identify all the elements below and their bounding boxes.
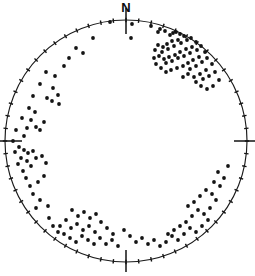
data-point	[194, 80, 198, 84]
rim-tick-group	[3, 18, 249, 264]
data-point	[33, 110, 37, 114]
data-point	[129, 36, 133, 40]
data-point	[45, 96, 49, 100]
data-point	[161, 45, 165, 49]
data-point	[200, 60, 204, 64]
data-point	[38, 198, 42, 202]
data-point	[26, 151, 30, 155]
data-point	[214, 198, 218, 202]
data-point	[191, 58, 195, 62]
data-point	[91, 36, 95, 40]
data-point-group	[11, 20, 230, 248]
data-point	[25, 126, 29, 130]
data-point	[172, 44, 176, 48]
data-point	[88, 216, 92, 220]
data-point	[14, 128, 18, 132]
data-point	[152, 56, 156, 60]
data-point	[164, 70, 168, 74]
data-point	[159, 66, 163, 70]
data-point	[94, 212, 98, 216]
data-point	[21, 169, 25, 173]
data-point	[202, 212, 206, 216]
data-point	[81, 51, 85, 55]
data-point	[140, 236, 144, 240]
data-point	[68, 236, 72, 240]
data-point	[186, 204, 190, 208]
data-point	[153, 48, 157, 52]
data-point	[29, 118, 33, 122]
data-point	[188, 226, 192, 230]
data-point	[56, 230, 60, 234]
data-point	[182, 54, 186, 58]
data-point	[166, 232, 170, 236]
data-point	[25, 159, 29, 163]
data-point	[181, 64, 185, 68]
data-point	[204, 188, 208, 192]
data-point	[194, 64, 198, 68]
data-point	[74, 240, 78, 244]
data-point	[160, 50, 164, 54]
primitive-circle	[5, 20, 247, 262]
data-point	[70, 208, 74, 212]
data-point	[185, 38, 189, 42]
data-point	[205, 56, 209, 60]
data-point	[206, 218, 210, 222]
data-point	[164, 61, 168, 65]
data-point	[34, 125, 38, 129]
data-point	[42, 120, 46, 124]
data-point	[149, 24, 153, 28]
data-point	[16, 162, 20, 166]
data-point	[211, 84, 215, 88]
data-point	[192, 200, 196, 204]
data-point	[188, 51, 192, 55]
data-point	[166, 47, 170, 51]
stereonet-plot: N	[0, 0, 255, 276]
data-point	[110, 238, 114, 242]
data-point	[99, 220, 103, 224]
data-point	[44, 161, 48, 165]
data-point	[203, 50, 207, 54]
data-point	[11, 139, 15, 143]
data-point	[20, 116, 24, 120]
data-point	[204, 68, 208, 72]
data-point	[47, 216, 51, 220]
data-point	[190, 214, 194, 218]
data-point	[178, 50, 182, 54]
data-point	[98, 236, 102, 240]
data-point	[50, 99, 54, 103]
data-point	[196, 208, 200, 212]
north-label: N	[121, 0, 130, 15]
data-point	[179, 41, 183, 45]
data-point	[86, 238, 90, 242]
data-point	[130, 22, 134, 26]
data-point	[184, 220, 188, 224]
data-point	[93, 230, 97, 234]
data-point	[198, 194, 202, 198]
data-point	[213, 70, 217, 74]
data-point	[210, 62, 214, 66]
data-point	[87, 224, 91, 228]
data-point	[81, 228, 85, 232]
data-point	[74, 46, 78, 50]
data-point	[111, 232, 115, 236]
data-point	[176, 238, 180, 242]
data-point	[186, 72, 190, 76]
data-point	[157, 54, 161, 58]
data-point	[92, 242, 96, 246]
data-point	[62, 64, 66, 68]
data-point	[216, 170, 220, 174]
data-point	[222, 176, 226, 180]
data-point	[167, 55, 171, 59]
data-point	[208, 206, 212, 210]
data-point	[210, 192, 214, 196]
data-point	[152, 238, 156, 242]
data-point	[116, 244, 120, 248]
data-point	[108, 20, 112, 24]
data-point	[182, 232, 186, 236]
data-point	[105, 226, 109, 230]
data-point	[190, 45, 194, 49]
data-point	[69, 226, 73, 230]
data-point	[38, 128, 42, 132]
data-point	[122, 228, 126, 232]
data-point	[169, 68, 173, 72]
